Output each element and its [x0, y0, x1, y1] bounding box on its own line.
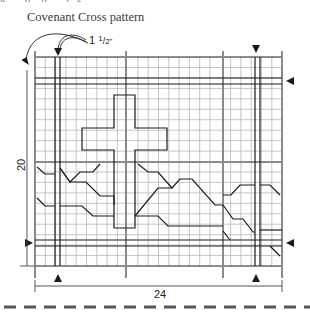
marker-bottom-right-icon — [252, 274, 260, 282]
offset-label: 1 1/2" — [89, 34, 113, 46]
width-label: 24 — [154, 288, 166, 300]
arrow-curve-icon — [21, 57, 30, 67]
marker-right-upper-icon — [286, 77, 294, 85]
marker-top-right-icon — [252, 45, 260, 53]
arrow-down-icon — [54, 48, 62, 56]
pattern-diagram: 1 1/2" 20 24 — [0, 0, 310, 313]
marker-bottom-left-icon — [54, 274, 62, 282]
marker-right-lower-icon — [286, 239, 294, 247]
height-label: 20 — [15, 159, 27, 171]
wave-lines — [37, 164, 282, 256]
marker-left-lower-icon — [25, 239, 33, 247]
